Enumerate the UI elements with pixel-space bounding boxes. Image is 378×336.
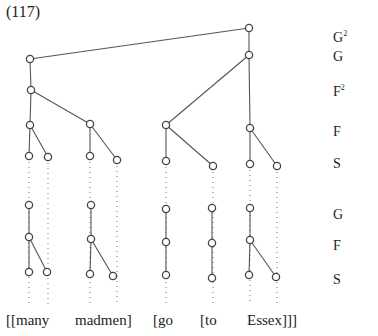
tree-node — [86, 120, 93, 127]
word-label: [[many — [6, 312, 49, 328]
tree-edge — [29, 125, 30, 156]
level-label: G2 — [333, 27, 347, 45]
tree-node — [209, 162, 216, 169]
tree-node — [109, 272, 116, 279]
tree-node — [246, 160, 253, 167]
level-label-base: F — [333, 238, 341, 253]
level-label-base: G — [333, 49, 343, 64]
tree-node — [87, 235, 94, 242]
level-label-base: F — [333, 124, 341, 139]
level-label-base: S — [333, 156, 341, 171]
tree-node — [26, 55, 33, 62]
metrical-grid-diagram — [0, 0, 378, 336]
tree-node — [25, 152, 32, 159]
tree-node — [272, 273, 279, 280]
tree-node — [44, 153, 51, 160]
tree-node — [86, 270, 93, 277]
dotted-association-lines — [29, 162, 277, 305]
tree-edge — [30, 59, 31, 90]
tree-node — [162, 157, 169, 164]
word-label: madmen] — [75, 312, 132, 328]
tree-edge — [166, 55, 249, 125]
level-label: F2 — [333, 81, 345, 99]
level-label-superscript: 2 — [343, 29, 347, 38]
level-label-superscript: 2 — [341, 83, 345, 92]
tree-edge — [90, 124, 117, 160]
level-label-base: S — [333, 272, 341, 287]
word-label: Essex]]] — [247, 312, 297, 328]
tree-node — [245, 24, 252, 31]
tree-edge — [166, 125, 213, 166]
tree-edge — [249, 55, 250, 128]
tree-edge — [29, 237, 47, 272]
word-label: [go — [153, 312, 173, 328]
level-label: F — [333, 125, 341, 139]
tree-edge — [31, 90, 90, 124]
tree-edge — [30, 28, 249, 59]
tree-nodes — [25, 24, 280, 281]
tree-node — [25, 201, 32, 208]
tree-edge — [250, 128, 277, 166]
level-label: S — [333, 157, 341, 171]
tree-node — [208, 239, 215, 246]
tree-node — [246, 236, 253, 243]
tree-node — [26, 121, 33, 128]
tree-node — [208, 204, 215, 211]
level-label-base: G — [333, 207, 343, 222]
tree-edges — [29, 28, 277, 278]
level-label: G — [333, 50, 343, 64]
tree-node — [245, 51, 252, 58]
level-label-base: F — [333, 84, 341, 99]
level-label: F — [333, 239, 341, 253]
level-label: G — [333, 208, 343, 222]
tree-node — [208, 274, 215, 281]
tree-node — [27, 86, 34, 93]
tree-edge — [90, 239, 91, 274]
tree-edge — [250, 240, 276, 277]
level-label-base: G — [333, 30, 343, 45]
tree-node — [245, 271, 252, 278]
tree-edge — [91, 239, 113, 276]
tree-node — [162, 271, 169, 278]
tree-node — [246, 204, 253, 211]
tree-node — [162, 205, 169, 212]
word-label: [to — [200, 312, 217, 328]
tree-node — [25, 268, 32, 275]
tree-node — [87, 201, 94, 208]
tree-edge — [249, 240, 250, 275]
tree-node — [162, 121, 169, 128]
tree-node — [25, 233, 32, 240]
tree-node — [113, 156, 120, 163]
tree-node — [86, 152, 93, 159]
tree-edge — [30, 90, 31, 125]
tree-edge — [30, 125, 48, 157]
tree-node — [43, 268, 50, 275]
tree-node — [162, 238, 169, 245]
level-label: S — [333, 273, 341, 287]
tree-node — [246, 124, 253, 131]
tree-node — [273, 162, 280, 169]
